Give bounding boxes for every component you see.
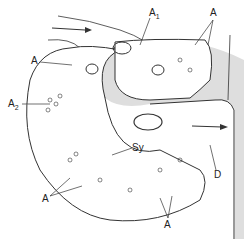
label-a-bottom: A (164, 220, 171, 230)
diagram: A1 A A A2 Sy D A A (0, 0, 244, 239)
label-a-bottom-left: A (42, 194, 49, 204)
label-a1: A1 (149, 8, 160, 22)
label-a2: A2 (8, 99, 19, 113)
label-sy: Sy (132, 143, 144, 153)
synapse-diagram-art (0, 0, 244, 239)
label-a-left: A (31, 56, 38, 66)
label-d: D (214, 170, 221, 180)
label-a-top-right: A (210, 8, 217, 18)
